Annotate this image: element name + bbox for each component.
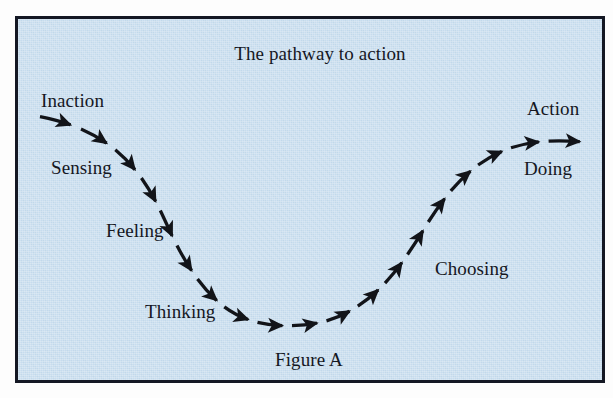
stage-label-action: Action bbox=[527, 99, 579, 118]
stage-label-choosing: Choosing bbox=[435, 259, 509, 278]
figure-page: The pathway to action Inaction Sensing F… bbox=[0, 0, 613, 398]
stage-label-sensing: Sensing bbox=[51, 158, 112, 177]
stage-label-inaction: Inaction bbox=[41, 91, 104, 110]
pathway-curve bbox=[18, 19, 602, 380]
figure-title: The pathway to action bbox=[215, 44, 425, 63]
stage-label-doing: Doing bbox=[524, 159, 572, 178]
stage-label-feeling: Feeling bbox=[106, 221, 164, 240]
stage-label-thinking: Thinking bbox=[145, 302, 215, 321]
figure-panel: The pathway to action Inaction Sensing F… bbox=[15, 16, 605, 383]
figure-caption: Figure A bbox=[275, 350, 343, 369]
